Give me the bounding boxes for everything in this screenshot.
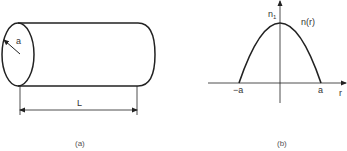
cylinder-end-ellipse: [2, 23, 34, 86]
x-axis-label: r: [339, 88, 342, 98]
curve-label: n(r): [301, 17, 315, 27]
radius-label: a: [16, 36, 21, 46]
index-profile-graph: n1 n(r) −a a r (b): [208, 1, 346, 148]
peak-label: n1: [268, 9, 277, 20]
tick-label-neg-a: −a: [233, 85, 243, 95]
figure-canvas: a L (a) n1 n(r) −a a r (b): [0, 0, 347, 151]
caption-a: (a): [75, 139, 85, 148]
cylinder-body-outline: [18, 23, 155, 86]
caption-b: (b): [277, 139, 287, 148]
tick-label-a: a: [318, 85, 323, 95]
cylinder-figure: a L (a): [2, 23, 155, 148]
length-label: L: [77, 98, 82, 108]
